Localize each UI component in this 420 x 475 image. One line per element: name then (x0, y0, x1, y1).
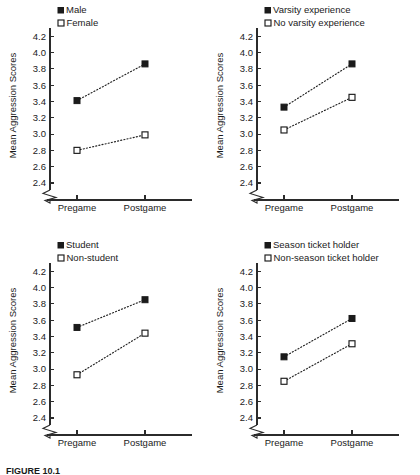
y-axis-title: Mean Aggression Scores (7, 52, 18, 158)
chart-panel-bottom-left: 2.42.62.83.03.23.43.63.84.04.2PregamePos… (0, 235, 210, 470)
y-axis-tick-label: 3.8 (240, 298, 253, 309)
series-line-no-varsity-experience (284, 97, 352, 130)
y-axis-title: Mean Aggression Scores (214, 287, 225, 393)
legend-label: Season ticket holder (273, 239, 359, 250)
figure-caption: FIGURE 10.1 (6, 466, 416, 475)
y-axis-title: Mean Aggression Scores (7, 287, 18, 393)
chart-svg-bottom-left: 2.42.62.83.03.23.43.63.84.04.2PregamePos… (0, 235, 210, 470)
y-axis-tick-label: 4.0 (240, 282, 253, 293)
y-axis-tick-label: 4.0 (33, 282, 46, 293)
data-point-marker (349, 341, 355, 347)
y-axis-tick-label: 2.4 (240, 177, 253, 188)
y-axis-tick-label: 2.6 (33, 161, 46, 172)
y-axis-break-icon (250, 190, 263, 203)
legend-label: Female (67, 17, 99, 28)
chart-panel-top-left: 2.42.62.83.03.23.43.63.84.04.2PregamePos… (0, 0, 210, 235)
y-axis-tick-label: 4.2 (33, 31, 46, 42)
legend-marker-filled (58, 243, 64, 249)
y-axis-tick-label: 3.0 (33, 363, 46, 374)
legend-label: Student (66, 239, 99, 250)
y-axis-tick-label: 3.6 (240, 80, 253, 91)
y-axis-tick-label: 3.4 (240, 96, 253, 107)
y-axis-tick-label: 3.4 (240, 331, 253, 342)
data-point-marker (142, 330, 148, 336)
data-point-marker (349, 61, 355, 67)
legend-marker-open (265, 255, 271, 261)
y-axis-tick-label: 3.0 (33, 128, 46, 139)
y-axis-tick-label: 2.8 (33, 145, 46, 156)
legend-marker-open (58, 255, 64, 261)
legend-label: No varsity experience (274, 17, 365, 28)
chart-svg-top-left: 2.42.62.83.03.23.43.63.84.04.2PregamePos… (0, 0, 210, 235)
y-axis-tick-label: 3.4 (33, 331, 46, 342)
legend-marker-filled (265, 243, 271, 249)
x-axis-category-label: Postgame (331, 437, 374, 448)
y-axis-tick-label: 4.2 (33, 266, 46, 277)
series-line-non-season-ticket-holder (284, 344, 352, 382)
y-axis-tick-label: 3.0 (240, 128, 253, 139)
legend-marker-filled (58, 8, 64, 14)
y-axis-tick-label: 4.2 (240, 266, 253, 277)
y-axis-tick-label: 3.2 (240, 112, 253, 123)
legend-marker-open (58, 20, 64, 26)
series-line-student (77, 300, 145, 328)
y-axis-break-icon (43, 190, 56, 203)
legend-label: Non-student (67, 252, 119, 263)
y-axis-tick-label: 3.4 (33, 96, 46, 107)
y-axis-tick-label: 2.4 (240, 412, 253, 423)
y-axis-tick-label: 2.6 (240, 396, 253, 407)
data-point-marker (281, 354, 287, 360)
legend-label: Male (66, 4, 87, 15)
data-point-marker (349, 94, 355, 100)
y-axis-tick-label: 3.8 (33, 298, 46, 309)
x-axis-category-label: Pregame (58, 202, 97, 213)
y-axis-tick-label: 3.0 (240, 363, 253, 374)
y-axis-tick-label: 4.0 (33, 47, 46, 58)
data-point-marker (281, 378, 287, 384)
data-point-marker (281, 104, 287, 110)
x-axis-category-label: Pregame (58, 437, 97, 448)
y-axis-tick-label: 2.8 (240, 145, 253, 156)
x-axis-category-label: Postgame (331, 202, 374, 213)
data-point-marker (142, 61, 148, 67)
y-axis-tick-label: 3.2 (33, 347, 46, 358)
y-axis-tick-label: 3.6 (240, 315, 253, 326)
y-axis-tick-label: 3.6 (33, 80, 46, 91)
y-axis-tick-label: 2.6 (33, 396, 46, 407)
y-axis-break-icon (43, 425, 56, 438)
y-axis-tick-label: 4.2 (240, 31, 253, 42)
y-axis-tick-label: 4.0 (240, 47, 253, 58)
chart-panel-top-right: 2.42.62.83.03.23.43.63.84.04.2PregamePos… (207, 0, 417, 235)
x-axis-category-label: Postgame (124, 437, 167, 448)
y-axis-tick-label: 3.2 (33, 112, 46, 123)
legend-label: Non-season ticket holder (274, 252, 379, 263)
data-point-marker (281, 127, 287, 133)
series-line-varsity-experience (284, 64, 352, 107)
chart-panel-bottom-right: 2.42.62.83.03.23.43.63.84.04.2PregamePos… (207, 235, 417, 470)
y-axis-tick-label: 3.8 (33, 63, 46, 74)
series-line-male (77, 64, 145, 101)
x-axis-category-label: Pregame (265, 202, 304, 213)
chart-svg-top-right: 2.42.62.83.03.23.43.63.84.04.2PregamePos… (207, 0, 417, 235)
data-point-marker (74, 372, 80, 378)
series-line-female (77, 135, 145, 151)
data-point-marker (74, 147, 80, 153)
y-axis-tick-label: 3.6 (33, 315, 46, 326)
legend-marker-open (265, 20, 271, 26)
y-axis-tick-label: 2.8 (240, 380, 253, 391)
data-point-marker (142, 132, 148, 138)
data-point-marker (142, 297, 148, 303)
y-axis-break-icon (250, 425, 263, 438)
y-axis-tick-label: 3.8 (240, 63, 253, 74)
x-axis-category-label: Postgame (124, 202, 167, 213)
series-line-season-ticket-holder (284, 318, 352, 356)
y-axis-tick-label: 2.4 (33, 412, 46, 423)
y-axis-tick-label: 3.2 (240, 347, 253, 358)
data-point-marker (349, 315, 355, 321)
chart-svg-bottom-right: 2.42.62.83.03.23.43.63.84.04.2PregamePos… (207, 235, 417, 470)
y-axis-title: Mean Aggression Scores (214, 52, 225, 158)
legend-marker-filled (265, 8, 271, 14)
data-point-marker (74, 324, 80, 330)
figure-panel-grid: 2.42.62.83.03.23.43.63.84.04.2PregamePos… (0, 0, 420, 470)
data-point-marker (74, 98, 80, 104)
